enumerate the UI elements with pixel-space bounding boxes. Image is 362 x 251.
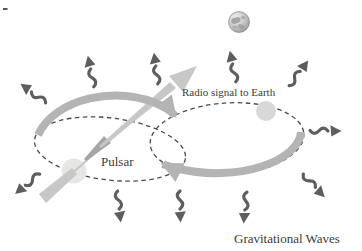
gravitational-wave-icon <box>17 79 49 107</box>
gravitational-waves-label: Gravitational Waves <box>234 231 340 246</box>
pulsar-diagram: Radio signal to Earth Pulsar Gravitation… <box>0 0 362 251</box>
pulsar-label: Pulsar <box>101 154 134 169</box>
gravitational-wave-icon <box>310 125 342 137</box>
earth-icon <box>229 12 250 33</box>
gravitational-wave-icon <box>149 52 163 84</box>
pulsar-orbit-ellipse <box>31 109 189 189</box>
image-speck <box>3 8 8 10</box>
gravitational-wave-icon <box>112 191 126 223</box>
orbit-direction-arrow-right <box>163 132 301 173</box>
gravitational-wave-icon <box>225 50 241 83</box>
companion-star <box>256 101 276 121</box>
orbit-direction-arrow-left <box>38 96 175 135</box>
gravitational-wave-icon <box>11 170 43 198</box>
gravitational-wave-icon <box>238 191 253 224</box>
gravitational-wave-icon <box>175 191 186 223</box>
radio-beam-arrow <box>39 66 197 203</box>
gravitational-wave-icon <box>83 55 99 88</box>
radio-signal-label: Radio signal to Earth <box>182 86 276 98</box>
gravitational-wave-icon <box>285 57 313 89</box>
gravitational-wave-icon <box>299 170 328 201</box>
